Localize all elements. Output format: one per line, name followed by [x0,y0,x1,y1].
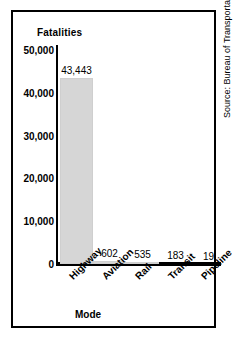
y-axis-line [56,45,58,265]
y-axis-tick-label: 20,000 [13,173,54,184]
chart-frame: Fatalities 010,00020,00030,00040,00050,0… [11,10,216,328]
y-axis-tick-label: 0 [13,259,54,270]
x-axis-title: Mode [75,309,101,320]
source-note: Source: Bureau of Transportation Statist… [222,0,232,118]
y-axis-tick-label: 10,000 [13,216,54,227]
y-axis-tick-label: 40,000 [13,87,54,98]
y-axis-tick-label: 50,000 [13,45,54,56]
y-axis-tick-label: 30,000 [13,130,54,141]
plot-area: 010,00020,00030,00040,00050,00043,443Hig… [13,12,214,326]
bar-value-label: 535 [134,249,151,260]
bar [60,78,93,264]
bar-value-label: 43,443 [61,65,92,76]
